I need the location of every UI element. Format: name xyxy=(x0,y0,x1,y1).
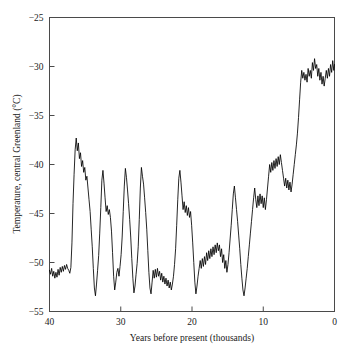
x-axis-tick-labels: 403020100 xyxy=(45,317,337,327)
y-tick-label: −55 xyxy=(29,307,44,317)
temperature-line xyxy=(50,59,335,296)
data-series-group xyxy=(50,59,335,296)
y-axis-tick-labels: −55−50−45−40−35−30−25 xyxy=(29,13,44,317)
x-tick-label: 10 xyxy=(259,317,269,327)
y-axis-tick-marks xyxy=(50,18,55,312)
x-tick-label: 0 xyxy=(332,317,337,327)
x-axis-tick-marks xyxy=(50,307,335,312)
x-axis-title: Years before present (thousands) xyxy=(130,333,254,344)
plot-frame xyxy=(50,18,335,312)
x-tick-label: 40 xyxy=(45,317,55,327)
y-tick-label: −35 xyxy=(29,111,44,121)
y-axis-title: Temperature, central Greenland (°C) xyxy=(12,94,23,233)
chart-figure: 403020100 −55−50−45−40−35−30−25 Years be… xyxy=(0,0,351,354)
x-tick-label: 30 xyxy=(116,317,126,327)
plot-area-border xyxy=(50,18,335,312)
y-tick-label: −45 xyxy=(29,209,44,219)
y-tick-label: −25 xyxy=(29,13,44,23)
greenland-temperature-chart: 403020100 −55−50−45−40−35−30−25 Years be… xyxy=(0,0,351,354)
y-tick-label: −50 xyxy=(29,258,44,268)
y-tick-label: −30 xyxy=(29,62,44,72)
x-tick-label: 20 xyxy=(187,317,197,327)
y-tick-label: −40 xyxy=(29,160,44,170)
